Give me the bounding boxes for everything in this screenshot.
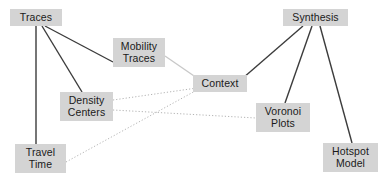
node-density-centers[interactable]: Density Centers bbox=[60, 92, 113, 121]
diagram-canvas: TracesMobility TracesSynthesisContextDen… bbox=[0, 0, 388, 177]
node-travel-time[interactable]: Travel Time bbox=[15, 144, 66, 173]
node-label-mobility-traces: Mobility Traces bbox=[121, 41, 157, 64]
node-hotspot-model[interactable]: Hotspot Model bbox=[323, 143, 378, 172]
node-traces[interactable]: Traces bbox=[10, 9, 62, 26]
node-voronoi-plots[interactable]: Voronoi Plots bbox=[256, 103, 310, 132]
node-label-traces: Traces bbox=[20, 12, 52, 24]
node-label-context: Context bbox=[202, 78, 239, 90]
node-synthesis[interactable]: Synthesis bbox=[283, 9, 348, 26]
node-label-travel-time: Travel Time bbox=[26, 147, 55, 170]
node-mobility-traces[interactable]: Mobility Traces bbox=[113, 38, 165, 67]
node-label-hotspot-model: Hotspot Model bbox=[332, 146, 369, 169]
node-context[interactable]: Context bbox=[193, 75, 247, 92]
edge-synthesis-to-context bbox=[243, 26, 303, 78]
node-label-synthesis: Synthesis bbox=[292, 12, 338, 24]
edge-traces-to-mobility-traces bbox=[45, 26, 113, 62]
edge-traces-to-density-centers bbox=[42, 26, 82, 92]
edge-synthesis-to-hotspot-model bbox=[320, 26, 352, 143]
node-label-voronoi-plots: Voronoi Plots bbox=[265, 106, 301, 129]
node-label-density-centers: Density Centers bbox=[68, 95, 105, 118]
edge-density-centers-to-context bbox=[113, 88, 197, 100]
edge-density-centers-to-voronoi-plots bbox=[113, 110, 256, 118]
